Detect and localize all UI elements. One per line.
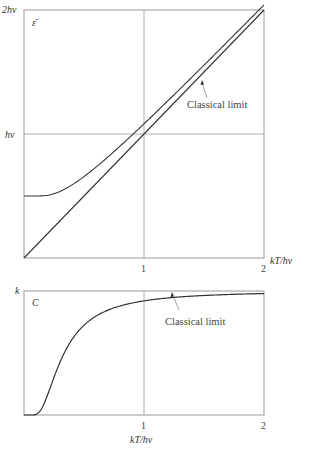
energy-plot: Classical limit 2hν hν ε̄ 1 2 kT/hν (2, 4, 293, 274)
heat-capacity-y-label-k: k (15, 285, 20, 296)
energy-annotation-label: Classical limit (187, 99, 247, 110)
energy-y-label-2hv: 2hν (2, 4, 17, 15)
energy-axis-symbol: ε̄ (32, 17, 39, 28)
heat-capacity-x-tick-1: 1 (141, 420, 146, 431)
energy-y-label-hv: hν (5, 129, 15, 140)
heat-capacity-plot: Classical limit k C 1 2 kT/hν (15, 285, 266, 445)
arrowhead-icon (171, 292, 175, 297)
energy-x-tick-1: 1 (141, 263, 146, 274)
arrowhead-icon (201, 80, 205, 85)
energy-x-tick-2: 2 (261, 263, 266, 274)
figure: Classical limit 2hν hν ε̄ 1 2 kT/hν Clas… (0, 0, 310, 451)
heat-capacity-axis-symbol: C (32, 297, 39, 308)
heat-capacity-x-axis-label: kT/hν (130, 434, 153, 445)
heat-capacity-x-tick-2: 2 (261, 420, 266, 431)
heat-capacity-annotation-label: Classical limit (165, 316, 225, 327)
energy-x-axis-label: kT/hν (270, 255, 293, 266)
